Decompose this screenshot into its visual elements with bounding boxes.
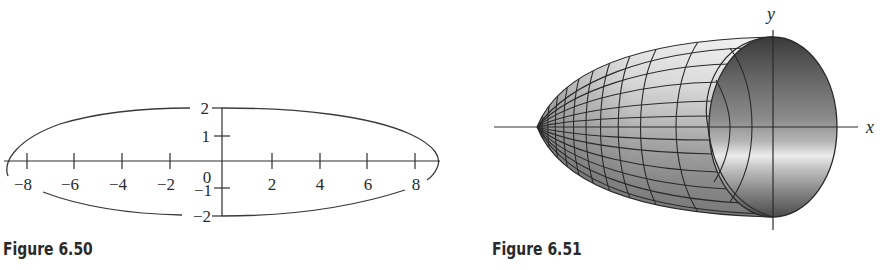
y-tick-label: −1 — [194, 181, 212, 200]
x-tick-label: 2 — [268, 175, 277, 194]
figure-6-50: −8 −6 −4 −2 2 4 6 8 0 2 1 −1 −2 Figure 6… — [0, 0, 450, 270]
ellipse-upper-right — [222, 108, 439, 180]
x-tick-label: 6 — [364, 175, 373, 194]
ellipse-upper-left — [7, 108, 190, 176]
figure-caption: Figure 6.50 — [3, 239, 93, 259]
x-tick-label: 4 — [316, 175, 325, 194]
ellipse-curve — [7, 108, 439, 216]
x-tick-label: −2 — [157, 175, 175, 194]
x-axis-label: x — [865, 117, 874, 137]
paraboloid-figure: y x — [450, 0, 886, 270]
y-tick-label: 2 — [201, 99, 210, 118]
figure-6-51: y x Figure 6.51 — [450, 0, 886, 270]
ellipse-lower-left — [43, 192, 182, 215]
y-tick-label: 1 — [202, 127, 211, 146]
y-tick-label: −2 — [193, 207, 211, 226]
figure-caption: Figure 6.51 — [492, 239, 582, 259]
x-tick-label: −6 — [61, 175, 79, 194]
x-tick-label: 8 — [412, 175, 421, 194]
x-tick-label: −8 — [14, 175, 32, 194]
x-tick-label: −4 — [109, 175, 128, 194]
y-axis-label: y — [765, 4, 775, 24]
axes — [4, 108, 440, 216]
ellipse-lower-right — [222, 190, 405, 216]
ellipse-plot: −8 −6 −4 −2 2 4 6 8 0 2 1 −1 −2 — [0, 0, 450, 270]
